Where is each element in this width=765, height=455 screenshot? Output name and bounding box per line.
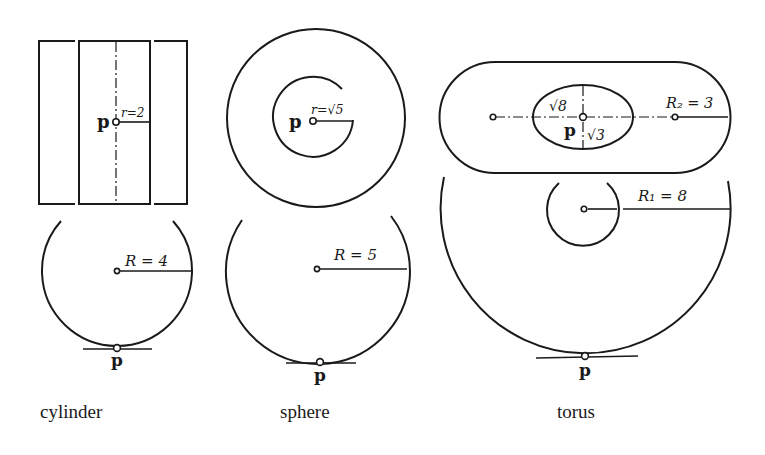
center-marker (490, 114, 496, 120)
torus-R2-label: R₂ = 3 (665, 95, 713, 111)
cylinder-curve-circle (42, 221, 192, 346)
point-p-label: p (111, 350, 123, 370)
caption-cylinder: cylinder (40, 401, 103, 422)
point-p-label: p (579, 360, 591, 380)
cylinder-right-strip (154, 41, 187, 204)
torus-small-circle (547, 183, 619, 246)
point-p-marker (580, 114, 587, 121)
point-p-label: p (564, 120, 576, 140)
cylinder-top-view: p r=2 (39, 41, 187, 204)
cylinder-side-view: R = 4 p (42, 221, 192, 370)
point-p-marker (113, 119, 119, 125)
caption-sphere: sphere (280, 401, 330, 422)
torus-side-view: R₁ = 8 p (441, 177, 731, 380)
center-marker (314, 266, 319, 271)
point-p-label: p (97, 111, 110, 132)
cylinder-r-label: r=2 (121, 106, 144, 120)
center-marker (114, 268, 119, 273)
sphere-R-label: R = 5 (333, 246, 377, 264)
center-marker (581, 206, 587, 212)
sphere-curve-circle (226, 216, 410, 364)
point-p-marker (582, 353, 589, 360)
center-marker (672, 114, 678, 120)
cylinder-R-label: R = 4 (124, 252, 168, 270)
torus-large-circle (441, 177, 731, 353)
torus-ellipse-major-label: √8 (549, 98, 567, 114)
torus-ellipse-minor-label: √3 (587, 127, 605, 143)
cylinder-left-strip (39, 41, 75, 204)
torus-top-view: √8 √3 p R₂ = 3 (440, 62, 731, 173)
sphere-outer-circle (227, 29, 405, 207)
torus-R1-label: R₁ = 8 (637, 187, 687, 205)
sphere-side-view: R = 5 p (226, 216, 410, 385)
point-p-marker (310, 118, 316, 124)
caption-torus: torus (557, 401, 595, 422)
point-p-label: p (314, 365, 326, 385)
sphere-r-label: r=√5 (311, 102, 343, 117)
sphere-top-view: p r=√5 (227, 29, 405, 207)
point-p-label: p (289, 111, 302, 132)
curvature-diagram: p r=2 R = 4 p cylinder p r=√5 R = 5 p sp… (0, 0, 765, 455)
